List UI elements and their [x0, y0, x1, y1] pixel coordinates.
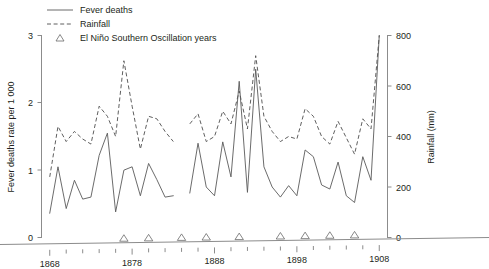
- enso-marker-1896: [276, 232, 284, 239]
- x-axis-label-1908: 1908: [369, 254, 389, 264]
- data-series-group: [50, 36, 380, 214]
- x-axis-label-1888: 1888: [204, 256, 224, 266]
- y-axis-left-label-1: 1: [28, 166, 33, 176]
- chart-figure: Fever deaths Rainfall El Niño Southern O…: [0, 0, 489, 269]
- y-axis-right-label-800: 800: [396, 31, 411, 41]
- x-axis-line: [0, 238, 489, 245]
- y-axis-right-label-600: 600: [396, 82, 411, 92]
- enso-marker-1887: [202, 234, 210, 241]
- x-axis-tick-labels: 18681878188818981908: [40, 254, 390, 269]
- legend-label-rainfall: Rainfall: [80, 19, 110, 29]
- y-axis-right-label-200: 200: [396, 183, 411, 193]
- enso-marker-1880: [144, 234, 152, 241]
- enso-marker-1891: [235, 233, 243, 240]
- y-axis-left-label-0: 0: [28, 233, 33, 243]
- enso-marker-1884: [177, 234, 185, 241]
- x-axis: 18681878188818981908: [0, 238, 489, 269]
- legend-swatch-enso-triangle-icon: [56, 35, 64, 42]
- y-axis-left-title: Fever deaths rate per 1 000: [6, 81, 16, 192]
- enso-marker-1877: [120, 235, 128, 242]
- series-line-fever-deaths: [50, 36, 380, 214]
- enso-marker-1902: [326, 232, 334, 239]
- y-axis-left-label-3: 3: [28, 31, 33, 41]
- y-axis-right-title: Rainfall (mm): [426, 110, 436, 164]
- enso-marker-1905: [350, 231, 358, 238]
- y-axis-left-label-2: 2: [28, 98, 33, 108]
- chart-canvas: Fever deaths Rainfall El Niño Southern O…: [0, 0, 489, 269]
- y-axis-right-label-0: 0: [396, 233, 401, 243]
- legend-label-fever-deaths: Fever deaths: [80, 5, 133, 15]
- y-axis-left: 3 2 1 0 Fever deaths rate per 1 000: [6, 31, 42, 243]
- x-axis-label-1868: 1868: [40, 259, 60, 269]
- enso-marker-1899: [301, 232, 309, 239]
- x-axis-ticks: [50, 245, 380, 256]
- x-axis-label-1878: 1878: [122, 258, 142, 268]
- chart-legend: Fever deaths Rainfall El Niño Southern O…: [47, 5, 217, 43]
- legend-label-enso: El Niño Southern Oscillation years: [80, 33, 217, 43]
- x-axis-label-1898: 1898: [287, 255, 307, 265]
- y-axis-right-label-400: 400: [396, 132, 411, 142]
- y-axis-right: 800 600 400 200 0 Rainfall (mm): [388, 31, 437, 243]
